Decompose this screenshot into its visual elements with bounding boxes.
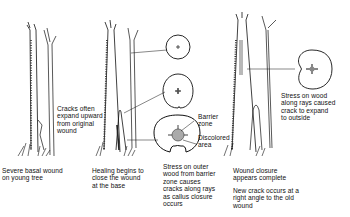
tree-young-wounded — [18, 22, 50, 156]
tree-thin — [44, 28, 56, 156]
tree-thin-2 — [128, 28, 138, 148]
annotation-stress-rays: Stress on wood along rays caused crack t… — [281, 92, 335, 122]
caption-stage-4: Wound closure appears complete — [233, 167, 286, 182]
annotation-discolored-area: Discolored area — [198, 134, 230, 149]
cross-section-2 — [163, 74, 193, 108]
annotation-cracks-upward: Cracks often expand upward from original… — [57, 105, 103, 135]
cross-section-1 — [166, 35, 190, 59]
annotation-barrier-zone: Barrier zone — [198, 113, 218, 128]
tree-closed — [224, 12, 265, 156]
tree-healing — [96, 20, 135, 156]
caption-stage-1: Severe basal wound on young tree — [2, 167, 63, 182]
cross-section-3 — [154, 115, 200, 152]
caption-stage-3: Stress on outer wood from barrier zone c… — [163, 163, 216, 207]
tree-thin-4 — [250, 16, 276, 150]
caption-stage-5: New crack occurs at a right angle to the… — [233, 187, 299, 209]
cross-section-4 — [299, 50, 333, 89]
caption-stage-2: Healing begins to close the wound at the… — [92, 167, 144, 189]
